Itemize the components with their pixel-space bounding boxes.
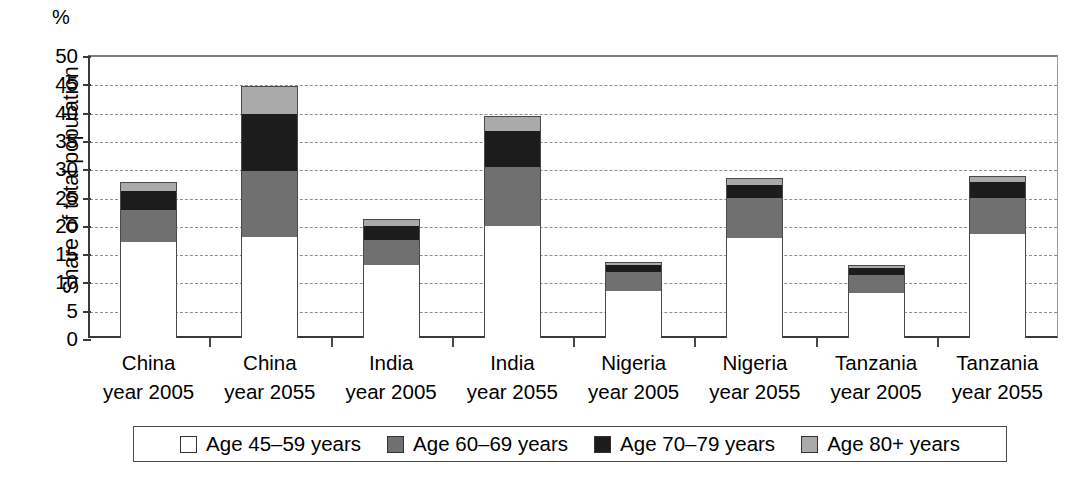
x-axis-ticks — [88, 338, 1058, 348]
stacked-bar[interactable] — [848, 265, 905, 338]
bar-segment[interactable] — [970, 198, 1025, 235]
x-axis-category-label: Nigeriayear 2055 — [694, 348, 815, 406]
bar-segment[interactable] — [364, 226, 419, 241]
y-axis-tick-label: 45 — [38, 72, 78, 96]
bar-segment[interactable] — [849, 293, 904, 338]
x-label-year: year 2005 — [88, 377, 209, 406]
white-swatch — [180, 436, 197, 453]
chart-canvas: Share of total population % 504540353025… — [0, 0, 1070, 483]
x-label-year: year 2005 — [816, 377, 937, 406]
legend-item-label: Age 70–79 years — [620, 432, 775, 456]
y-axis-unit: % — [52, 6, 70, 29]
legend-item-label: Age 60–69 years — [413, 432, 568, 456]
legend-item-label: Age 80+ years — [827, 432, 960, 456]
bar-group — [120, 55, 177, 338]
x-axis-category-label: Chinayear 2005 — [88, 348, 209, 406]
y-axis-tick-label: 15 — [38, 242, 78, 266]
legend-item[interactable]: Age 45–59 years — [180, 432, 361, 456]
bar-segment[interactable] — [364, 240, 419, 265]
bar-segment[interactable] — [727, 185, 782, 198]
bar-group — [605, 55, 662, 338]
x-label-country: India — [452, 348, 573, 377]
y-axis-tick-label: 25 — [38, 186, 78, 210]
x-label-year: year 2055 — [694, 377, 815, 406]
bar-group — [484, 55, 541, 338]
x-label-country: Nigeria — [573, 348, 694, 377]
stacked-bar[interactable] — [241, 86, 298, 338]
y-axis-tick-label: 30 — [38, 157, 78, 181]
bar-segment[interactable] — [242, 87, 297, 114]
bar-segment[interactable] — [727, 198, 782, 239]
x-axis-category-label: Nigeriayear 2005 — [573, 348, 694, 406]
x-label-country: India — [331, 348, 452, 377]
bar-series-container — [88, 55, 1058, 338]
bar-segment[interactable] — [485, 226, 540, 338]
x-axis-category-label: Tanzaniayear 2055 — [937, 348, 1058, 406]
x-label-year: year 2005 — [573, 377, 694, 406]
legend-item-label: Age 45–59 years — [206, 432, 361, 456]
stacked-bar[interactable] — [726, 178, 783, 338]
x-axis-category-label: Indiayear 2005 — [331, 348, 452, 406]
bar-segment[interactable] — [485, 117, 540, 131]
bar-group — [363, 55, 420, 338]
x-axis-tick — [694, 338, 696, 347]
bar-segment[interactable] — [485, 167, 540, 226]
bar-segment[interactable] — [121, 191, 176, 210]
chart-legend: Age 45–59 yearsAge 60–69 yearsAge 70–79 … — [133, 426, 1007, 462]
bar-segment[interactable] — [970, 182, 1025, 198]
bar-segment[interactable] — [242, 237, 297, 338]
bar-segment[interactable] — [606, 265, 661, 272]
bar-segment[interactable] — [121, 183, 176, 191]
stacked-bar[interactable] — [969, 176, 1026, 338]
bar-segment[interactable] — [121, 242, 176, 338]
x-axis-tick — [937, 338, 939, 347]
bar-segment[interactable] — [970, 234, 1025, 338]
x-label-year: year 2055 — [209, 377, 330, 406]
x-label-country: Tanzania — [937, 348, 1058, 377]
x-axis-tick — [816, 338, 818, 347]
x-label-country: Tanzania — [816, 348, 937, 377]
bar-segment[interactable] — [727, 238, 782, 338]
x-axis-tick — [573, 338, 575, 347]
light-gray-swatch — [801, 436, 818, 453]
stacked-bar[interactable] — [484, 116, 541, 338]
x-axis-labels: Chinayear 2005Chinayear 2055Indiayear 20… — [88, 348, 1058, 410]
legend-item[interactable]: Age 60–69 years — [387, 432, 568, 456]
stacked-bar[interactable] — [363, 219, 420, 338]
y-axis-tick-label: 40 — [38, 101, 78, 125]
x-axis-tick — [452, 338, 454, 347]
bar-segment[interactable] — [242, 114, 297, 170]
bar-segment[interactable] — [121, 210, 176, 243]
x-axis-category-label: Chinayear 2055 — [209, 348, 330, 406]
stacked-bar[interactable] — [120, 182, 177, 338]
bar-segment[interactable] — [242, 171, 297, 237]
legend-item[interactable]: Age 70–79 years — [594, 432, 775, 456]
bar-segment[interactable] — [485, 131, 540, 168]
bar-segment[interactable] — [364, 265, 419, 338]
bar-segment[interactable] — [849, 275, 904, 293]
x-label-year: year 2005 — [331, 377, 452, 406]
legend-item[interactable]: Age 80+ years — [801, 432, 960, 456]
x-label-country: China — [88, 348, 209, 377]
bar-group — [241, 55, 298, 338]
y-axis-tick-label: 5 — [38, 299, 78, 323]
y-axis-tick-label: 0 — [38, 327, 78, 351]
x-label-year: year 2055 — [937, 377, 1058, 406]
bar-segment[interactable] — [606, 272, 661, 291]
bar-group — [726, 55, 783, 338]
black-swatch — [594, 436, 611, 453]
y-axis-tick-label: 35 — [38, 129, 78, 153]
y-axis-tick-label: 20 — [38, 214, 78, 238]
x-axis-category-label: Tanzaniayear 2005 — [816, 348, 937, 406]
bar-segment[interactable] — [606, 291, 661, 339]
bar-segment[interactable] — [849, 268, 904, 275]
stacked-bar[interactable] — [605, 262, 662, 338]
x-axis-tick — [331, 338, 333, 347]
x-axis-category-label: Indiayear 2055 — [452, 348, 573, 406]
x-label-country: China — [209, 348, 330, 377]
x-label-country: Nigeria — [694, 348, 815, 377]
bar-group — [969, 55, 1026, 338]
x-axis-tick — [209, 338, 211, 347]
y-axis-tick-label: 10 — [38, 270, 78, 294]
gray-swatch — [387, 436, 404, 453]
